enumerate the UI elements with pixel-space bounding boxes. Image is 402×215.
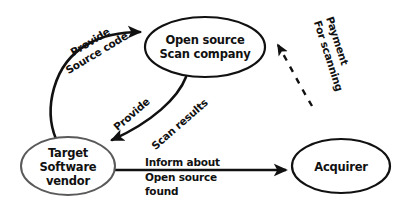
provide-scan-results-label-scan-results: Scan results — [149, 96, 210, 151]
inform-about-label-line2: Open source — [145, 171, 217, 183]
edge-inform-about-open-source-found: Inform about Open source found — [113, 156, 286, 197]
inform-about-label-line1: Inform about — [145, 156, 220, 168]
open-source-scan-company-label-line2: Scan company — [159, 47, 251, 61]
acquirer-label: Acquirer — [314, 160, 368, 174]
target-software-vendor-label-line1: Target — [48, 146, 89, 160]
edge-provide-scan-results: Provide Scan results — [111, 77, 210, 152]
open-source-scan-company-node[interactable]: Open source Scan company — [145, 17, 265, 77]
provide-source-code-label-group: Provide Source code — [57, 18, 130, 76]
provide-scan-results-label-left-group: Provide — [111, 95, 152, 133]
edge-payment-for-scanning: Payment For scanning — [278, 15, 358, 106]
inform-about-label-line3: found — [145, 185, 178, 197]
provide-scan-results-label-right-group: Scan results — [149, 96, 210, 151]
target-software-vendor-label-line2: Software — [40, 160, 97, 174]
payment-for-scanning-label-group: Payment For scanning — [312, 15, 358, 93]
diagram-svg: Provide Source code Provide Scan results… — [0, 0, 402, 215]
acquirer-node[interactable]: Acquirer — [292, 139, 390, 193]
open-source-scan-company-label-line1: Open source — [165, 33, 244, 47]
target-software-vendor-node[interactable]: Target Software vendor — [21, 137, 115, 195]
diagram-canvas: Provide Source code Provide Scan results… — [0, 0, 402, 215]
payment-for-scanning-arrow — [278, 45, 312, 106]
target-software-vendor-label-line3: vendor — [46, 174, 91, 188]
provide-scan-results-label-provide: Provide — [111, 95, 152, 133]
